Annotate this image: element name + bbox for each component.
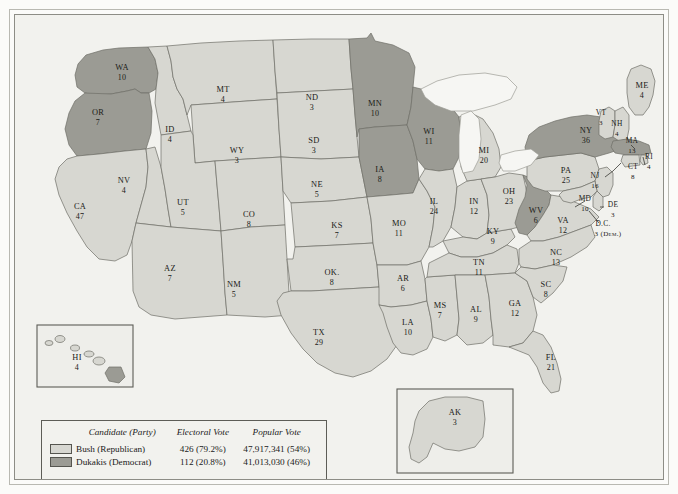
state-votes-SD: 3 <box>312 146 316 155</box>
state-label-AL: AL <box>470 305 482 314</box>
legend-candidate: Dukakis (Democrat) <box>72 455 170 468</box>
state-shape-ND[interactable] <box>273 39 353 93</box>
legend-electoral: 426 (79.2%) <box>170 442 235 455</box>
state-votes-MT: 4 <box>221 95 225 104</box>
state-votes-TX: 29 <box>315 338 324 347</box>
state-label-DC: D.C. <box>595 219 610 228</box>
great-lakes-water <box>421 73 517 111</box>
swatch-republican-icon <box>50 444 72 454</box>
state-votes-WA: 10 <box>118 73 127 82</box>
state-label-PA: PA <box>561 166 572 175</box>
state-label-OH: OH <box>503 187 516 196</box>
state-label-WY: WY <box>230 146 245 155</box>
state-label-GA: GA <box>509 299 522 308</box>
state-votes-RI: 4 <box>647 163 651 171</box>
state-label-DE: DE <box>608 200 619 209</box>
state-label-MA: MA <box>626 136 639 145</box>
state-votes-SC: 8 <box>544 290 548 299</box>
state-votes-KS: 7 <box>335 231 339 240</box>
legend-header-candidate: Candidate (Party) <box>72 427 170 442</box>
state-votes-MO: 11 <box>395 229 403 238</box>
state-votes-NH: 4 <box>615 130 619 138</box>
state-label-NY: NY <box>580 126 593 135</box>
state-label-ND: ND <box>306 93 319 102</box>
state-shape-OR[interactable] <box>65 89 152 156</box>
state-label-IN: IN <box>469 197 478 206</box>
state-votes-NY: 36 <box>582 136 591 145</box>
state-label-NC: NC <box>550 248 562 257</box>
state-votes-OK: 8 <box>330 278 334 287</box>
legend-table: Candidate (Party) Electoral Vote Popular… <box>50 427 318 468</box>
legend-header-swatch <box>50 427 72 442</box>
legend-header-row: Candidate (Party) Electoral Vote Popular… <box>50 427 318 442</box>
state-votes-IL: 24 <box>430 207 439 216</box>
state-label-SC: SC <box>541 280 552 289</box>
state-shape-IA[interactable] <box>359 125 419 197</box>
state-shape-MN[interactable] <box>349 33 415 137</box>
state-label-HI: HI <box>72 353 81 362</box>
state-label-CT: CT <box>628 162 638 171</box>
legend-popular: 47,917,341 (54%) <box>235 442 318 455</box>
state-votes-ME: 4 <box>640 91 644 100</box>
state-shape-AZ[interactable] <box>132 223 227 319</box>
state-label-FL: FL <box>546 353 556 362</box>
state-votes-NM: 5 <box>232 290 236 299</box>
state-label-MN: MN <box>368 99 382 108</box>
state-label-LA: LA <box>402 318 414 327</box>
inner-frame-rule: WA10OR7CA47NV4ID4MT4WY3UT5AZ7CO8NM5ND3SD… <box>14 14 664 480</box>
legend-panel: Candidate (Party) Electoral Vote Popular… <box>41 420 327 480</box>
state-votes-LA: 10 <box>404 328 413 337</box>
state-votes-IA: 8 <box>378 175 382 184</box>
swatch-democrat-icon <box>50 457 72 467</box>
state-votes-AZ: 7 <box>168 274 172 283</box>
state-votes-HI: 4 <box>75 363 79 372</box>
state-votes-MS: 7 <box>438 311 442 320</box>
state-label-NE: NE <box>311 180 323 189</box>
state-votes-VA: 12 <box>559 226 568 235</box>
legend-header-electoral: Electoral Vote <box>170 427 235 442</box>
legend-swatch-cell <box>50 442 72 455</box>
state-votes-MI: 20 <box>480 156 489 165</box>
map-stage: WA10OR7CA47NV4ID4MT4WY3UT5AZ7CO8NM5ND3SD… <box>15 15 664 480</box>
state-label-UT: UT <box>177 198 189 207</box>
state-votes-DC: 3 (Dem.) <box>595 230 622 238</box>
state-label-VT: VT <box>596 108 607 117</box>
state-votes-FL: 21 <box>547 363 556 372</box>
state-shape-ME[interactable] <box>627 65 655 115</box>
state-votes-NC: 13 <box>552 258 561 267</box>
state-label-IA: IA <box>375 165 384 174</box>
state-label-IL: IL <box>430 197 439 206</box>
legend-row: Bush (Republican) 426 (79.2%) 47,917,341… <box>50 442 318 455</box>
state-label-CO: CO <box>243 210 255 219</box>
state-votes-OR: 7 <box>96 118 100 127</box>
legend-candidate: Bush (Republican) <box>72 442 170 455</box>
legend-popular: 41,013,030 (46%) <box>235 455 318 468</box>
legend-swatch-cell <box>50 455 72 468</box>
state-votes-MA: 13 <box>628 147 636 155</box>
state-votes-ID: 4 <box>168 135 172 144</box>
state-votes-MD: 10 <box>581 205 589 213</box>
state-label-MO: MO <box>392 219 406 228</box>
state-label-WV: WV <box>529 206 544 215</box>
state-label-KY: KY <box>487 227 500 236</box>
state-votes-NE: 5 <box>315 190 319 199</box>
state-label-AZ: AZ <box>164 264 176 273</box>
state-votes-PA: 25 <box>562 176 571 185</box>
state-label-TX: TX <box>313 328 325 337</box>
state-label-SD: SD <box>308 136 319 145</box>
state-label-MS: MS <box>434 301 447 310</box>
legend-header-popular: Popular Vote <box>235 427 318 442</box>
state-label-NM: NM <box>227 280 241 289</box>
state-label-WI: WI <box>423 127 434 136</box>
state-label-MD: MD <box>579 194 592 203</box>
state-votes-WY: 3 <box>235 156 239 165</box>
state-votes-AL: 9 <box>474 315 478 324</box>
state-label-ME: ME <box>635 81 648 90</box>
legend-electoral: 112 (20.8%) <box>170 455 235 468</box>
state-label-ID: ID <box>165 125 174 134</box>
state-shape-NE[interactable] <box>281 157 367 203</box>
state-label-CA: CA <box>74 202 86 211</box>
state-votes-CT: 8 <box>631 173 635 181</box>
state-label-VA: VA <box>557 216 569 225</box>
state-votes-NV: 4 <box>122 186 126 195</box>
